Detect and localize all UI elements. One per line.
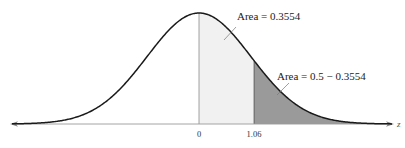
normal-curve-chart: Area = 0.3554 Area = 0.5 − 0.3554 0 1.06… [0,0,405,148]
area-tail-label: Area = 0.5 − 0.3554 [277,70,366,82]
tick-label-zero: 0 [197,129,201,139]
axis-variable-label: z [396,119,401,129]
area-center-label: Area = 0.3554 [237,10,301,22]
shaded-area-center [199,13,254,124]
tick-label-z: 1.06 [247,129,262,139]
